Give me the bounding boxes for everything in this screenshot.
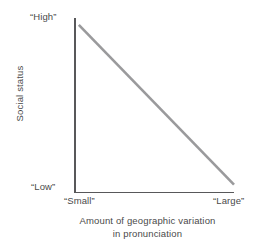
x-axis-title: Amount of geographic variation in pronun… bbox=[60, 215, 235, 240]
x-axis-tick-large: “Large” bbox=[213, 195, 244, 206]
y-axis-title: Social status bbox=[14, 49, 25, 139]
chart-figure: “High” “Low” “Small” “Large” Social stat… bbox=[0, 0, 264, 241]
x-axis-title-line-2: in pronunciation bbox=[60, 228, 235, 241]
x-axis-title-line-1: Amount of geographic variation bbox=[60, 215, 235, 228]
data-line-series-1 bbox=[79, 25, 234, 185]
y-axis-tick-low: “Low” bbox=[31, 181, 55, 192]
y-axis-tick-high: “High” bbox=[30, 11, 56, 22]
x-axis-tick-small: “Small” bbox=[64, 195, 95, 206]
